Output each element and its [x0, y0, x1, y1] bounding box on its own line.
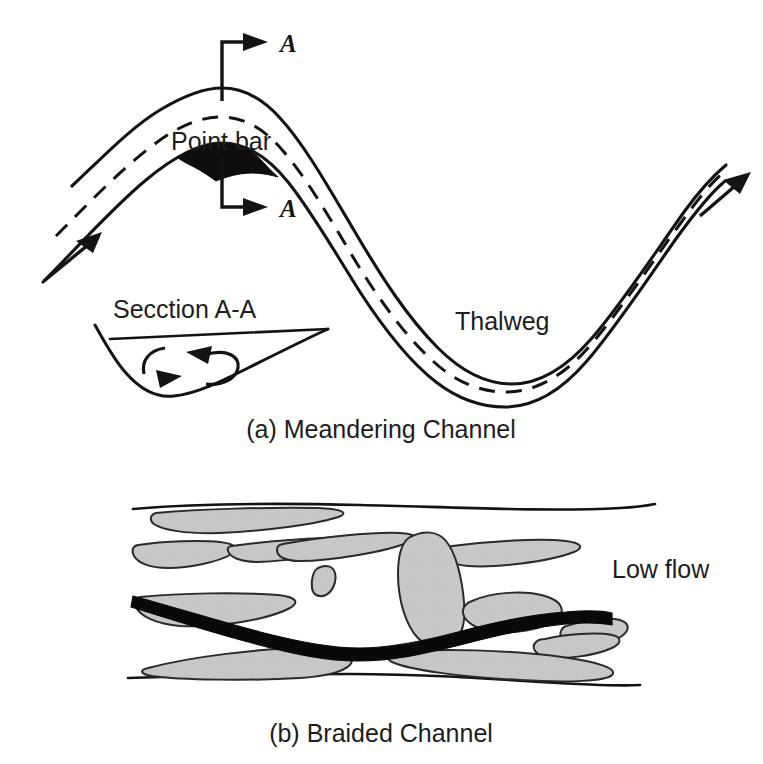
- low-flow-label: Low flow: [612, 555, 710, 583]
- section-marker-bottom-label: A: [278, 195, 297, 222]
- section-marker-top-label: A: [278, 30, 297, 57]
- figure-root: A A Point bar Thalweg Secction A-A: [0, 0, 763, 764]
- panel-a-caption: (a) Meandering Channel: [246, 415, 516, 443]
- panel-b-caption: (b) Braided Channel: [269, 719, 493, 747]
- section-label: Secction A-A: [113, 295, 256, 323]
- point-bar-label: Point bar: [171, 127, 271, 155]
- river-channel-figure: A A Point bar Thalweg Secction A-A: [0, 0, 763, 764]
- thalweg-label: Thalweg: [455, 307, 550, 335]
